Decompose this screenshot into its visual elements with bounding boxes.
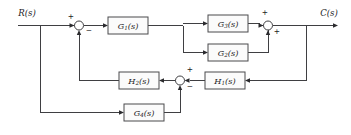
input-label-rs: R(s) <box>17 8 36 18</box>
wire-g4-to-sum <box>164 90 180 113</box>
sign-input-minus: − <box>86 26 92 35</box>
summing-junction-feedback[interactable] <box>176 76 185 85</box>
block-g1[interactable]: G1(s) <box>108 17 148 34</box>
sign-parallel-plus-top: + <box>262 8 268 17</box>
block-g2-label: G2(s) <box>218 48 239 59</box>
block-diagram-canvas: G1(s) G3(s) G2(s) H2(s) H1(s) G4(s) + <box>0 0 351 135</box>
arrowhead-g1-input <box>103 23 108 27</box>
arrowhead-sum-parallel-bottom <box>266 30 270 35</box>
summing-junction-input[interactable] <box>75 21 84 30</box>
block-g2[interactable]: G2(s) <box>208 44 248 61</box>
arrowhead-h2-input <box>159 78 164 82</box>
arrowhead-input-sum <box>70 23 75 27</box>
block-g4-label: G4(s) <box>134 108 155 119</box>
wire-g2-to-sum <box>248 30 268 53</box>
output-label-cs: C(s) <box>320 8 338 18</box>
block-h2-label: H2(s) <box>127 76 149 87</box>
block-h1[interactable]: H1(s) <box>205 72 245 89</box>
block-g3-label: G3(s) <box>218 19 239 30</box>
arrowhead-g2-input <box>203 50 208 54</box>
arrowhead-h1-input <box>245 78 250 82</box>
arrowhead-g4-input <box>119 110 124 114</box>
arrowhead-sum-input-bottom <box>77 30 81 35</box>
block-h2[interactable]: H2(s) <box>119 72 159 89</box>
arrowhead-output <box>333 23 338 27</box>
wire-h2-to-sum-input <box>79 35 119 81</box>
block-diagram-svg: G1(s) G3(s) G2(s) H2(s) H1(s) G4(s) + <box>0 0 351 135</box>
sign-feedback-minus: − <box>187 82 193 91</box>
arrowhead-sum-parallel-top <box>259 23 264 27</box>
block-h1-label: H1(s) <box>213 76 235 87</box>
wire-split-to-g2 <box>183 26 203 53</box>
sign-feedback-plus: + <box>187 65 193 74</box>
block-g3[interactable]: G3(s) <box>208 15 248 32</box>
block-g1-label: G1(s) <box>118 21 139 32</box>
sign-input-plus: + <box>68 12 74 21</box>
block-g4[interactable]: G4(s) <box>124 104 164 121</box>
summing-junction-parallel[interactable] <box>264 21 273 30</box>
sign-parallel-plus-bottom: + <box>274 27 280 36</box>
arrowhead-sum-feedback-bottom <box>178 85 182 90</box>
arrowhead-g3-input <box>203 21 208 25</box>
